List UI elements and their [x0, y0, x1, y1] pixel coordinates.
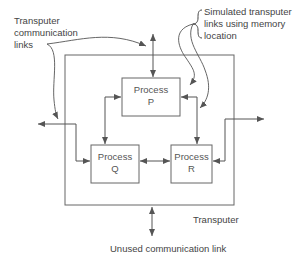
simulated-links-label-line2: links using memory: [204, 18, 292, 30]
simulated-links-label: Simulated transputer links using memory …: [204, 6, 292, 42]
process-r-label-line1: Process: [171, 151, 212, 163]
transputer-links-label: Transputer communication links: [14, 15, 78, 51]
p-q-link-arrow: [105, 97, 121, 144]
left-link-arrow: [38, 124, 90, 161]
process-p-label: Process P: [122, 84, 180, 108]
simulated-links-label-line3: location: [204, 30, 292, 42]
process-r-label-line2: R: [171, 163, 212, 175]
process-r-label: Process R: [171, 151, 212, 175]
process-q-label-line1: Process: [91, 151, 139, 163]
unused-link-label: Unused communication link: [110, 243, 226, 255]
simulated-links-label-line1: Simulated transputer: [204, 6, 292, 18]
transputer-links-label-line1: Transputer: [14, 15, 78, 27]
transputer-label: Transputer: [193, 214, 239, 226]
process-p-label-line2: P: [122, 96, 180, 108]
right-link-arrow: [213, 119, 264, 161]
brace: [193, 10, 202, 38]
pointer-curve-left: [47, 44, 58, 119]
transputer-links-label-line2: communication: [14, 27, 78, 39]
process-p-label-line1: Process: [122, 84, 180, 96]
transputer-links-label-line3: links: [14, 39, 78, 51]
process-q-label: Process Q: [91, 151, 139, 175]
p-r-link-arrow: [181, 97, 197, 144]
process-q-label-line2: Q: [91, 163, 139, 175]
